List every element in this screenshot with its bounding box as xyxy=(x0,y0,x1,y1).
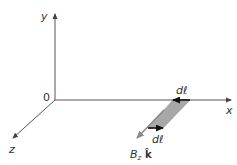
current-strip xyxy=(148,100,190,128)
svg-text:Bz: Bz xyxy=(130,148,142,162)
field-label-sub: z xyxy=(137,154,142,162)
z-axis-label: z xyxy=(8,143,15,156)
axes xyxy=(13,14,231,138)
x-axis-label: x xyxy=(225,104,233,117)
y-axis-label: y xyxy=(40,10,48,23)
field-label-unit: k̂ xyxy=(144,148,152,160)
magnetic-field-diagram: y 0 x z dℓ dℓ Bz k̂ xyxy=(0,0,237,165)
z-axis xyxy=(13,100,55,138)
field-label: Bz k̂ xyxy=(130,148,152,162)
bottom-dl-label: dℓ xyxy=(152,133,164,146)
origin-label: 0 xyxy=(43,91,50,104)
top-dl-label: dℓ xyxy=(176,84,188,97)
field-label-b: B xyxy=(130,148,138,161)
